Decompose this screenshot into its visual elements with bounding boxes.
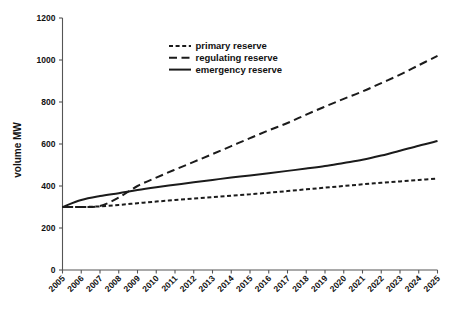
y-tick-label: 800 [41,97,55,107]
legend-label: emergency reserve [196,64,283,75]
y-tick-label: 400 [41,181,55,191]
y-tick-label: 600 [41,139,55,149]
x-tick-label: 2023 [384,273,405,294]
x-tick-label: 2018 [290,273,311,294]
x-tick-label: 2008 [103,273,124,294]
x-tick-label: 2014 [215,273,236,294]
y-tick-label: 0 [51,265,56,275]
legend-label: regulating reserve [196,52,278,63]
x-tick-label: 2009 [121,273,142,294]
x-tick-label: 2007 [84,273,105,294]
x-tick-label: 2021 [346,273,367,294]
x-tick-label: 2020 [328,273,349,294]
x-tick-label: 2011 [159,273,179,293]
y-tick-label: 1000 [37,55,56,65]
x-tick-label: 2013 [196,273,217,294]
y-tick-label: 1200 [37,13,56,23]
x-tick-label: 2022 [365,273,386,294]
data-series-group [63,56,438,207]
series-line-emergency-reserve [63,141,438,207]
legend-label: primary reserve [196,40,267,51]
x-tick-label: 2025 [421,273,442,294]
x-tick-label: 2016 [253,273,274,294]
x-tick-label: 2010 [140,273,161,294]
chart-legend: primary reserveregulating reserveemergen… [169,40,282,75]
y-tick-label: 200 [41,223,55,233]
line-chart: 020040060080010001200 200520062007200820… [0,0,459,311]
y-axis: 020040060080010001200 [37,13,63,275]
x-tick-label: 2017 [271,273,292,294]
x-tick-label: 2005 [46,273,67,294]
y-axis-title-text: volume MW [12,122,23,178]
x-axis: 2005200620072008200920102011201220132014… [46,270,442,294]
y-axis-title: volume MW [12,122,23,178]
x-tick-label: 2006 [65,273,86,294]
chart-container: 020040060080010001200 200520062007200820… [0,0,459,311]
x-tick-label: 2024 [403,273,424,294]
x-tick-label: 2012 [178,273,199,294]
x-tick-label: 2019 [309,273,330,294]
series-line-regulating-reserve [63,56,438,207]
x-tick-label: 2015 [234,273,255,294]
